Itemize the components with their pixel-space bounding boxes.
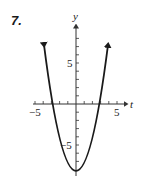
t-axis-label: t — [130, 98, 134, 110]
y-axis-label: y — [72, 10, 78, 22]
parabola-graph: y t −5 5 5 −5 — [0, 0, 141, 188]
y-tick-label-pos5: 5 — [67, 57, 73, 69]
y-tick-label-neg5: −5 — [60, 139, 72, 151]
t-tick-label-neg5: −5 — [29, 106, 41, 118]
t-tick-label-pos5: 5 — [114, 106, 120, 118]
